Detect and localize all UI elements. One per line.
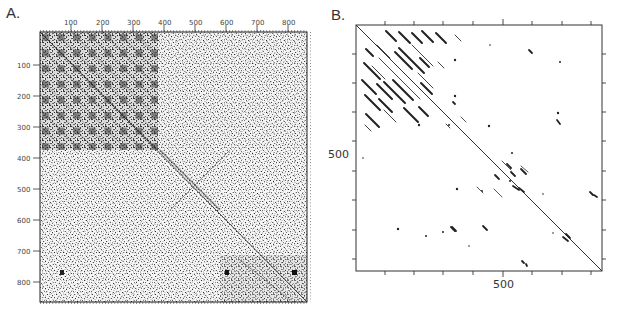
panel-a-dotplot [33,25,311,306]
panel-b-dotplot [352,19,606,277]
figure-canvas [0,0,620,320]
